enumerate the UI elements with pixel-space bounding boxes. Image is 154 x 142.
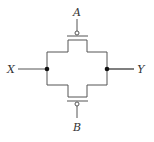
top-inversion-bubble-icon bbox=[75, 31, 79, 35]
label-x: X bbox=[7, 64, 15, 75]
node-x-dot bbox=[45, 67, 50, 72]
bottom-branch-wire bbox=[47, 69, 107, 97]
label-b: B bbox=[73, 122, 81, 133]
bottom-inversion-bubble-icon bbox=[75, 102, 79, 106]
label-y: Y bbox=[137, 64, 144, 75]
label-a: A bbox=[73, 7, 81, 18]
node-y-dot bbox=[105, 67, 110, 72]
top-branch-wire bbox=[47, 40, 107, 69]
